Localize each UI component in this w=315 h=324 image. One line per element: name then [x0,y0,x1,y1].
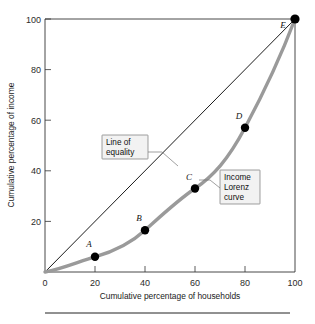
x-tick-label-0: 0 [42,278,47,288]
data-point-label-b: B [136,213,142,223]
callout-equality-line-2: equality [106,148,135,157]
data-point-label-a: A [85,239,92,249]
callout-line-of-equality: Line of equality [102,135,178,166]
data-point-label-d: D [235,111,243,121]
x-tick-label-60: 60 [190,278,200,288]
x-tick-label-20: 20 [90,278,100,288]
line-of-equality [45,19,295,272]
y-tick-label-60: 60 [31,116,41,126]
data-point-c [191,184,199,192]
data-point-d [241,124,249,132]
y-tick-label-80: 80 [31,65,41,75]
x-tick-label-80: 80 [240,278,250,288]
data-point-a [91,253,99,261]
data-point-label-c: C [186,172,193,182]
x-axis-ticks [95,266,245,272]
y-tick-label-40: 40 [31,166,41,176]
y-tick-label-20: 20 [31,217,41,227]
y-tick-label-100: 100 [26,15,41,25]
callout-lorenz-line-3: curve [224,193,244,202]
data-point-e [290,14,299,23]
data-point-label-e: E [279,20,286,30]
callout-lorenz-line-2: Lorenz [224,183,249,192]
lorenz-curve-figure: 100 80 60 40 20 0 20 40 60 80 100 Cumula… [0,0,315,324]
y-axis-title: Cumulative percentage of income [6,82,16,207]
callout-lorenz-line-1: Income [224,173,251,182]
y-axis-ticks [45,19,51,221]
x-tick-label-100: 100 [287,278,302,288]
x-axis-title: Cumulative percentage of households [100,291,241,301]
callout-equality-line-1: Line of [106,138,131,147]
callout-income-lorenz-curve: Income Lorenz curve [199,170,260,204]
chart-canvas: 100 80 60 40 20 0 20 40 60 80 100 Cumula… [0,0,315,324]
x-tick-label-40: 40 [140,278,150,288]
data-point-b [141,226,149,234]
